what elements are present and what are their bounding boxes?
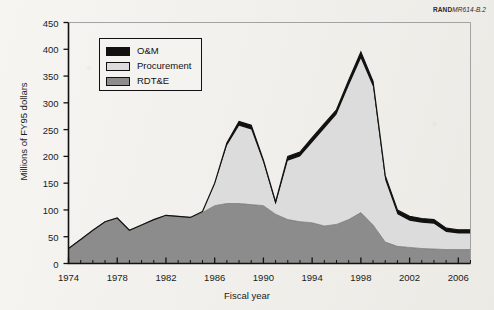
legend-label-om: O&M	[137, 46, 159, 56]
x-tick-label: 1990	[243, 272, 283, 283]
chart-legend: O&M Procurement RDT&E	[99, 38, 202, 91]
y-tick-label: 150	[29, 178, 59, 189]
legend-label-procurement: Procurement	[137, 61, 191, 71]
x-tick-label: 1998	[341, 272, 381, 283]
legend-label-rdte: RDT&E	[137, 76, 169, 86]
legend-swatch-om	[106, 47, 130, 56]
y-tick-label: 450	[29, 17, 59, 28]
x-tick-label: 1982	[146, 272, 186, 283]
y-axis-title: Millions of FY95 dollars	[18, 57, 29, 207]
x-tick-label: 1994	[292, 272, 332, 283]
y-tick-label: 250	[29, 124, 59, 135]
legend-item-om: O&M	[106, 44, 195, 58]
y-tick-label: 50	[29, 231, 59, 242]
y-tick-label: 350	[29, 71, 59, 82]
chart-canvas	[0, 0, 494, 310]
y-tick-label: 100	[29, 204, 59, 215]
y-tick-label: 300	[29, 97, 59, 108]
legend-item-rdte: RDT&E	[106, 74, 195, 88]
legend-swatch-procurement	[106, 62, 130, 71]
legend-swatch-rdte	[106, 77, 130, 86]
x-tick-label: 2002	[390, 272, 430, 283]
y-tick-label: 200	[29, 151, 59, 162]
x-tick-label: 1974	[49, 272, 89, 283]
y-tick-label: 400	[29, 44, 59, 55]
x-tick-label: 1978	[97, 272, 137, 283]
x-tick-label: 2006	[438, 272, 478, 283]
legend-item-procurement: Procurement	[106, 59, 195, 73]
y-tick-label: 0	[29, 258, 59, 269]
x-axis-title: Fiscal year	[0, 290, 494, 301]
x-tick-label: 1986	[195, 272, 235, 283]
